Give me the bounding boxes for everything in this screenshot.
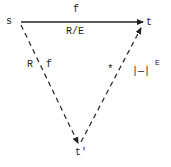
node-s: s: [6, 17, 12, 27]
node-t-prime: t': [75, 148, 87, 158]
edge-label-f-top: f: [73, 5, 79, 15]
marker-star: *: [107, 64, 114, 74]
arrow-t-prime-to-t: [81, 28, 141, 142]
edge-label-r-over-e: R/E: [66, 27, 84, 37]
arrow-s-to-t-prime: [21, 25, 78, 143]
node-t: t: [146, 18, 152, 28]
edge-label-sup-e: E: [155, 58, 160, 68]
edge-label-f-left: f: [46, 60, 52, 70]
edge-label-r: R: [27, 60, 33, 70]
edge-label-bars: |—|: [132, 67, 150, 77]
